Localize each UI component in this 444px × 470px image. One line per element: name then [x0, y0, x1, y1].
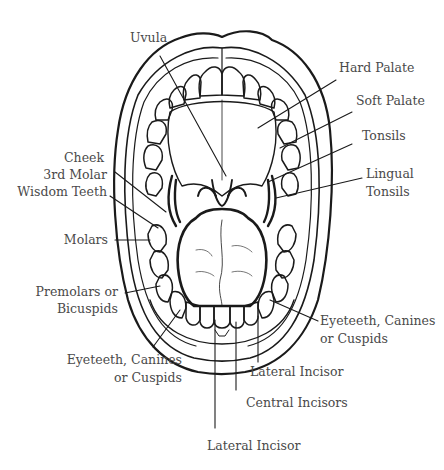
label-uvula: Uvula [130, 30, 167, 45]
lower-teeth [148, 225, 296, 336]
label-eyeteeth-left-1: Eyeteeth, Canines [67, 352, 182, 367]
label-soft-palate: Soft Palate [356, 93, 425, 108]
label-molars: Molars [64, 232, 108, 247]
label-third-molar-1: 3rd Molar [43, 167, 107, 182]
label-premolars-2: Bicuspids [57, 301, 118, 316]
label-premolars-1: Premolars or [36, 284, 118, 299]
label-lingual-tonsils-1: Lingual [366, 166, 414, 181]
label-lateral-incisor-bottom: Lateral Incisor [207, 438, 300, 453]
label-lingual-tonsils-2: Tonsils [366, 184, 410, 199]
label-eyeteeth-right-1: Eyeteeth, Canines [320, 313, 435, 328]
label-eyeteeth-right-2: or Cuspids [320, 331, 388, 346]
label-tonsils: Tonsils [362, 128, 406, 143]
soft-palate-arch [198, 188, 246, 196]
tonsil-left [169, 176, 180, 226]
label-central-incisors: Central Incisors [246, 395, 348, 410]
label-hard-palate: Hard Palate [339, 60, 414, 75]
label-lateral-incisor-right: Lateral Incisor [250, 364, 343, 379]
tonsil-right [264, 176, 275, 226]
label-eyeteeth-left-2: or Cuspids [114, 370, 182, 385]
label-third-molar-2: Wisdom Teeth [17, 184, 107, 199]
label-cheek: Cheek [64, 150, 104, 165]
